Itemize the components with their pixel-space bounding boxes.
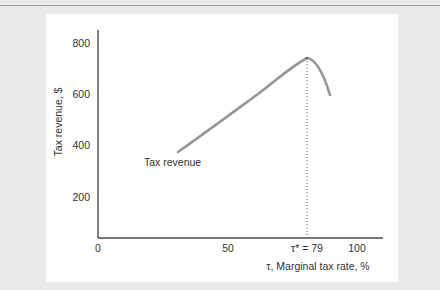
y-tick-label-200: 200 — [72, 191, 90, 203]
laffer-curve-chart: 800 600 400 200 Tax revenue, $ 0 50 τ* =… — [0, 0, 440, 290]
curve-peak-marker — [306, 57, 308, 59]
x-tick-label-0: 0 — [95, 242, 101, 254]
y-tick-label-600: 600 — [72, 88, 90, 100]
x-tick-label-optimal-rate: τ* = 79 — [291, 242, 323, 254]
y-axis-title: Tax revenue, $ — [52, 87, 64, 156]
tax-revenue-curve — [178, 58, 330, 152]
figure-container: 800 600 400 200 Tax revenue, $ 0 50 τ* =… — [0, 0, 440, 290]
x-tick-label-50: 50 — [222, 242, 234, 254]
x-axis-title: τ, Marginal tax rate, % — [266, 260, 369, 272]
y-tick-label-800: 800 — [72, 37, 90, 49]
tax-revenue-annotation: Tax revenue — [144, 156, 201, 168]
y-tick-label-400: 400 — [72, 139, 90, 151]
x-tick-label-100: 100 — [348, 242, 366, 254]
